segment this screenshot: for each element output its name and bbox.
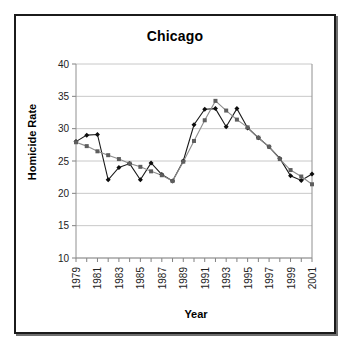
data-point bbox=[84, 133, 89, 138]
data-point bbox=[310, 171, 315, 176]
x-tick-marks bbox=[76, 258, 312, 262]
data-point bbox=[149, 169, 153, 173]
y-tick-label: 25 bbox=[58, 156, 70, 167]
data-point bbox=[267, 145, 271, 149]
x-tick-labels: 1979198119831985198719891991199319951997… bbox=[71, 267, 318, 290]
data-point bbox=[289, 168, 293, 172]
series-line-series-black-diamond bbox=[76, 109, 312, 181]
y-tick-label: 30 bbox=[58, 123, 70, 134]
data-point bbox=[95, 132, 100, 137]
data-point bbox=[299, 175, 303, 179]
gridlines bbox=[76, 64, 312, 258]
data-point bbox=[171, 179, 175, 183]
x-tick-label: 2001 bbox=[307, 267, 318, 290]
data-point bbox=[310, 182, 314, 186]
data-point bbox=[160, 173, 164, 177]
x-tick-label: 1997 bbox=[264, 267, 275, 290]
x-tick-label: 1979 bbox=[71, 267, 82, 290]
x-tick-label: 1987 bbox=[157, 267, 168, 290]
data-point bbox=[203, 118, 207, 122]
x-tick-label: 1991 bbox=[200, 267, 211, 290]
data-point bbox=[85, 144, 89, 148]
x-tick-label: 1995 bbox=[243, 267, 254, 290]
data-point bbox=[181, 160, 185, 164]
data-point bbox=[138, 165, 142, 169]
data-point bbox=[246, 125, 250, 129]
data-point bbox=[278, 157, 282, 161]
data-point bbox=[117, 157, 121, 161]
data-point bbox=[213, 99, 217, 103]
x-tick-label: 1993 bbox=[221, 267, 232, 290]
data-point bbox=[256, 136, 260, 140]
chart-plot: 10152025303540 1979198119831985198719891… bbox=[16, 16, 338, 336]
y-tick-label: 40 bbox=[58, 59, 70, 70]
series-markers bbox=[74, 99, 315, 186]
x-tick-label: 1981 bbox=[92, 267, 103, 290]
data-point bbox=[74, 140, 78, 144]
data-point bbox=[213, 106, 218, 111]
x-tick-label: 1989 bbox=[178, 267, 189, 290]
data-point bbox=[95, 149, 99, 153]
x-tick-label: 1983 bbox=[114, 267, 125, 290]
y-tick-labels: 10152025303540 bbox=[58, 59, 70, 264]
data-point bbox=[234, 106, 239, 111]
data-point bbox=[288, 173, 293, 178]
data-point bbox=[299, 178, 304, 183]
data-point bbox=[224, 109, 228, 113]
y-tick-label: 20 bbox=[58, 188, 70, 199]
data-point bbox=[128, 162, 132, 166]
data-point bbox=[106, 153, 110, 157]
data-point bbox=[192, 139, 196, 143]
y-tick-label: 10 bbox=[58, 253, 70, 264]
y-tick-label: 15 bbox=[58, 220, 70, 231]
y-tick-marks bbox=[72, 64, 76, 258]
figure-frame: Chicago Homicide Rate Year 1015202530354… bbox=[14, 14, 336, 334]
x-tick-label: 1999 bbox=[286, 267, 297, 290]
data-point bbox=[235, 118, 239, 122]
y-tick-label: 35 bbox=[58, 91, 70, 102]
x-tick-label: 1985 bbox=[135, 267, 146, 290]
